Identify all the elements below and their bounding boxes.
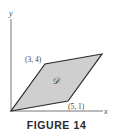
y-axis-label: y: [8, 9, 13, 18]
figure-caption: FIGURE 14: [0, 119, 113, 131]
x-axis-label: x: [103, 107, 108, 116]
figure-diagram: y x 𝒟 (3, 4) (5, 1): [0, 0, 113, 134]
vertex-label-3-4: (3, 4): [25, 55, 42, 64]
vertex-label-5-1: (5, 1): [68, 102, 85, 111]
